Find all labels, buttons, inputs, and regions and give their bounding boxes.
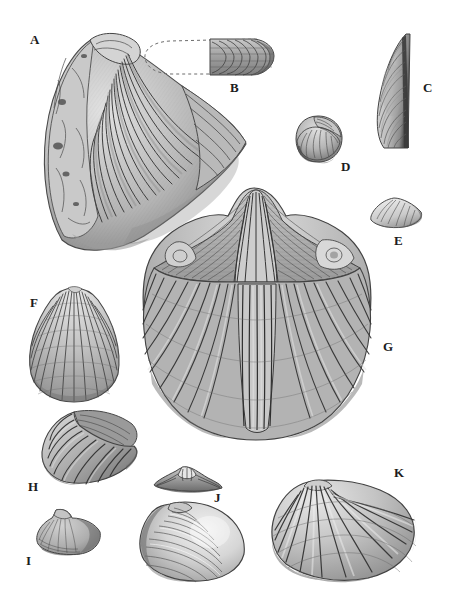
specimen-label-h: H: [28, 480, 38, 493]
specimen-d-illustration: [290, 112, 348, 170]
specimen-k-illustration: [264, 474, 422, 588]
specimen-label-j: J: [214, 491, 221, 504]
specimen-c-illustration: [372, 30, 422, 154]
specimen-i-illustration: [30, 506, 110, 560]
specimen-b-illustration: [142, 34, 278, 88]
specimen-label-f: F: [30, 296, 38, 309]
specimen-label-c: C: [423, 81, 433, 94]
specimen-j-illustration: [134, 498, 254, 584]
specimen-label-d: D: [341, 160, 351, 173]
specimen-label-a: A: [30, 33, 40, 46]
illustration-plate: A B C D E F G H I J K: [0, 0, 452, 606]
specimen-label-i: I: [26, 554, 31, 567]
specimen-h-illustration: [34, 404, 154, 488]
specimen-label-e: E: [394, 234, 403, 247]
specimen-label-g: G: [383, 340, 393, 353]
specimen-label-b: B: [230, 81, 239, 94]
specimen-g-illustration: [136, 178, 378, 444]
specimen-f-illustration: [22, 284, 130, 406]
specimen-label-k: K: [394, 466, 404, 479]
